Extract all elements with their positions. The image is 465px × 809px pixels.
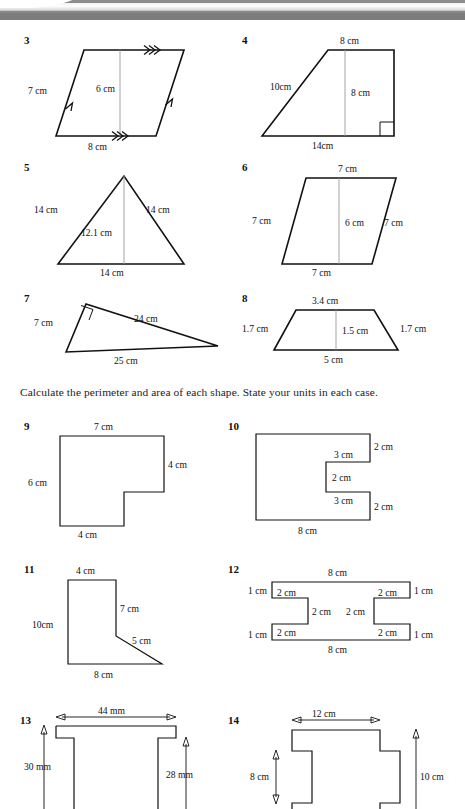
figure-3: 7 cm 6 cm 8 cm (36, 32, 206, 152)
label-12-right-web: 2 cm (346, 606, 365, 617)
instruction-text: Calculate the perimeter and area of each… (20, 386, 378, 398)
label-10-base: 8 cm (298, 525, 317, 536)
label-12-bottom-right-end: 1 cm (414, 629, 433, 640)
label-10-notch-depth: 2 cm (332, 472, 351, 483)
label-6-right-side: 7 cm (384, 217, 403, 228)
question-number-11: 11 (24, 563, 34, 575)
figure-6: 7 cm 7 cm 6 cm 7 cm 7 cm (250, 160, 430, 276)
label-5-height: 12.1 cm (81, 227, 112, 238)
label-5-base: 14 cm (100, 267, 124, 278)
figure-11: 4 cm 7 cm 10cm 5 cm 8 cm (36, 560, 206, 680)
label-6-height: 6 cm (345, 217, 364, 228)
label-7-hypotenuse: 24 cm (134, 313, 158, 324)
figure-4: 8 cm 10cm 8 cm 14cm (250, 32, 430, 152)
question-number-14: 14 (228, 714, 239, 726)
label-8-right-side: 1.7 cm (400, 323, 427, 334)
label-13-right-height: 28 mm (166, 769, 193, 780)
label-4-top: 8 cm (340, 35, 359, 46)
label-12-left-web: 2 cm (312, 606, 331, 617)
figure-14: 12 cm 8 cm 10 cm (250, 708, 440, 809)
label-11-left-side: 10cm (32, 619, 54, 630)
label-6-left-side: 7 cm (252, 215, 271, 226)
question-number-13: 13 (20, 714, 31, 726)
question-number-12: 12 (228, 563, 239, 575)
label-12-top-left-arm: 2 cm (277, 587, 296, 598)
label-12-bottom-left-arm: 2 cm (277, 627, 296, 638)
label-9-top: 7 cm (94, 421, 113, 432)
banner-shadow-strip (0, 13, 465, 20)
figure-7: 7 cm 24 cm 25 cm (36, 292, 231, 364)
label-10-lower-right: 2 cm (374, 501, 393, 512)
figure-13: 44 mm 30 mm 28 mm (36, 708, 216, 809)
label-12-bottom-right-arm: 2 cm (378, 627, 397, 638)
label-14-left-height: 8 cm (250, 771, 269, 782)
label-12-top: 8 cm (328, 567, 347, 578)
label-9-right-side: 4 cm (168, 459, 187, 470)
label-11-base: 8 cm (94, 669, 113, 680)
label-13-width: 44 mm (98, 705, 125, 716)
label-8-height: 1.5 cm (342, 325, 369, 336)
label-11-inner-right: 7 cm (120, 603, 139, 614)
label-8-base: 5 cm (324, 354, 343, 365)
question-number-5: 5 (24, 161, 30, 173)
label-5-left-side: 14 cm (34, 204, 58, 215)
label-12-top-right-arm: 2 cm (378, 587, 397, 598)
label-3-left-side: 7 cm (28, 85, 47, 96)
figure-10: 2 cm 3 cm 2 cm 3 cm 2 cm 8 cm (250, 418, 440, 538)
question-number-10: 10 (228, 420, 239, 432)
figure-9: 7 cm 4 cm 6 cm 4 cm (36, 418, 206, 538)
label-11-slant: 5 cm (132, 635, 151, 646)
label-7-left-side: 7 cm (34, 317, 53, 328)
question-number-8: 8 (242, 292, 248, 304)
label-5-right-side: 14 cm (146, 204, 170, 215)
label-9-base: 4 cm (78, 529, 97, 540)
question-number-9: 9 (24, 420, 30, 432)
figure-12: 8 cm 1 cm 2 cm 2 cm 2 cm 1 cm 2 cm 1 cm … (250, 560, 440, 670)
label-10-upper-right: 2 cm (374, 441, 393, 452)
label-10-lower-notch-bottom: 3 cm (334, 495, 353, 506)
label-3-base: 8 cm (88, 141, 107, 152)
figure-5: 14 cm 14 cm 12.1 cm 14 cm (36, 160, 206, 276)
label-3-height: 6 cm (96, 83, 115, 94)
question-number-6: 6 (242, 161, 248, 173)
question-number-3: 3 (24, 34, 30, 46)
figure-8: 3.4 cm 1.7 cm 1.5 cm 1.7 cm 5 cm (250, 292, 430, 364)
label-6-base: 7 cm (312, 267, 331, 278)
label-13-left-height: 30 mm (24, 761, 51, 772)
label-12-top-left-end: 1 cm (248, 585, 267, 596)
label-14-top-width: 12 cm (312, 708, 336, 719)
label-8-left-side: 1.7 cm (242, 323, 269, 334)
label-8-top: 3.4 cm (312, 295, 339, 306)
scanner-banner (0, 0, 465, 20)
label-4-height: 8 cm (351, 87, 370, 98)
label-7-base: 25 cm (114, 355, 138, 366)
label-14-right-height: 10 cm (420, 771, 444, 782)
label-12-top-right-end: 1 cm (414, 585, 433, 596)
question-number-7: 7 (24, 292, 30, 304)
worksheet-page: 3 7 cm 6 cm 8 cm 4 8 cm (0, 20, 465, 809)
label-4-base: 14cm (312, 140, 334, 151)
label-10-upper-notch-top: 3 cm (334, 449, 353, 460)
label-6-top: 7 cm (338, 163, 357, 174)
label-4-slant-side: 10cm (270, 81, 292, 92)
label-9-left-side: 6 cm (28, 477, 47, 488)
label-12-bottom-left-end: 1 cm (248, 629, 267, 640)
label-12-base: 8 cm (328, 644, 347, 655)
question-number-4: 4 (242, 34, 248, 46)
banner-curve-highlight (0, 0, 86, 8)
label-11-top: 4 cm (76, 565, 95, 576)
